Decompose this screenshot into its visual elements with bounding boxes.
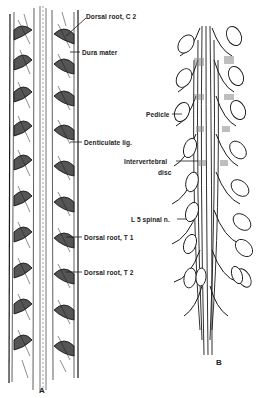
label-dorsal-root-t1: Dorsal root, T 1 [84, 233, 133, 242]
label-pedicle: Pedicle [146, 110, 170, 119]
panel-b-drawing [194, 26, 219, 355]
panel-a-rootlets [14, 26, 74, 356]
label-dorsal-root-t2: Dorsal root, T 2 [84, 268, 133, 277]
label-intervertebral: Intervertebral [124, 157, 167, 166]
panel-b-letter: B [216, 358, 222, 367]
label-dorsal-root-c2: Dorsal root, C 2 [86, 12, 136, 21]
label-denticulate-lig: Denticulate lig. [84, 138, 132, 147]
label-dura-mater: Dura mater [82, 48, 117, 57]
panel-a-letter: A [39, 386, 45, 395]
label-l5-spinal-n: L 5 spinal n. [131, 215, 170, 224]
spinal-cord-illustration [0, 0, 268, 398]
label-disc: disc [158, 168, 171, 177]
